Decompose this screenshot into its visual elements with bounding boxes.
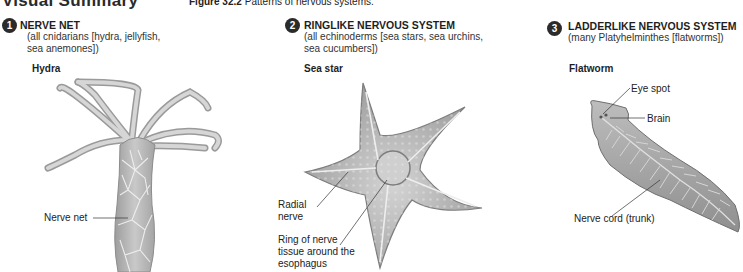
panel-number-badge: 1 [2,18,17,33]
panel-subtitle-line1: (all echinoderms [sea stars, sea urchins… [304,31,483,43]
label-ring-nerve-line1: Ring of nerve [278,234,337,246]
label-nerve-net: Nerve net [44,212,87,224]
figure-caption: Figure 32.2Patterns of nervous systems. [189,0,374,7]
hydra-illustration [48,82,219,272]
label-eye-spot: Eye spot [631,83,670,95]
section-title: Visual Summary [2,0,138,11]
panel-title: LADDERLIKE NERVOUS SYSTEM [568,20,736,32]
figure-number: Figure 32.2 [189,0,242,7]
panel-title: NERVE NET [20,19,80,31]
label-brain: Brain [647,113,670,125]
label-nerve-cord: Nerve cord (trunk) [574,213,655,225]
panel-subtitle-line1: (all cnidarians [hydra, jellyfish, [27,31,160,43]
label-radial-nerve-line2: nerve [278,211,303,223]
label-ring-nerve-line3: esophagus [278,258,327,270]
flatworm-illustration [591,88,740,232]
panel-number-badge: 3 [547,21,562,36]
figure-caption-text: Patterns of nervous systems. [245,0,374,7]
organism-name: Hydra [32,63,60,74]
panel-title: RINGLIKE NERVOUS SYSTEM [304,19,455,31]
organism-name: Sea star [304,63,343,74]
label-radial-nerve-line1: Radial [278,199,306,211]
panel-subtitle-line2: sea anemones]) [27,43,99,55]
label-ring-nerve-line2: tissue around the [278,246,355,258]
panel-number-badge: 2 [285,18,300,33]
panel-subtitle-line1: (many Platyhelminthes [flatworms]) [568,32,724,44]
organism-name: Flatworm [569,63,613,74]
panel-subtitle-line2: sea cucumbers]) [304,43,378,55]
